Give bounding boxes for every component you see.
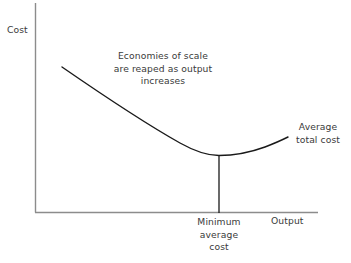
average-total-cost-label: Average total cost: [286, 121, 350, 146]
y-axis-label: Cost: [7, 24, 28, 37]
economics-cost-curve-figure: Cost Output Economies of scale are reape…: [0, 0, 351, 263]
minimum-average-cost-label: Minimum average cost: [186, 216, 252, 254]
x-axis-label: Output: [271, 215, 304, 228]
economies-of-scale-annotation: Economies of scale are reaped as output …: [99, 50, 227, 88]
